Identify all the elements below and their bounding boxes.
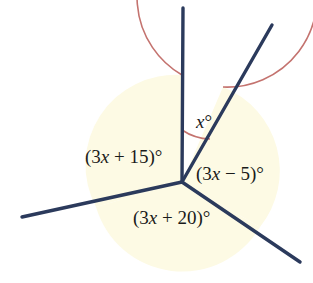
outer-angle-arc — [137, 0, 313, 87]
label-left-angle-suffix: + 15)° — [109, 146, 162, 168]
label-left-angle-prefix: (3 — [85, 146, 101, 168]
label-bottom-angle-suffix: + 20)° — [157, 207, 210, 229]
label-x-angle-suffix: ° — [204, 111, 212, 132]
label-left-angle: (3x + 15)° — [85, 146, 162, 168]
ray-up — [182, 8, 183, 182]
angle-diagram-canvas: x° (3x + 15)° (3x − 5)° (3x + 20)° — [0, 0, 313, 283]
label-bottom-angle-prefix: (3 — [133, 207, 149, 229]
label-right-angle-prefix: (3 — [196, 163, 212, 185]
geometry-diagram: x° (3x + 15)° (3x − 5)° (3x + 20)° — [0, 0, 313, 283]
label-right-angle-suffix: − 5)° — [220, 163, 264, 185]
label-right-angle: (3x − 5)° — [196, 163, 264, 185]
label-x-angle: x° — [195, 111, 212, 132]
label-bottom-angle: (3x + 20)° — [133, 207, 210, 229]
